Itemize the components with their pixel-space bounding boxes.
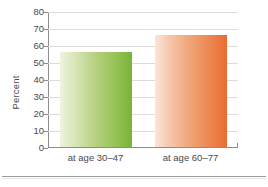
plot-area	[48, 12, 238, 148]
footer-divider	[2, 176, 266, 177]
x-axis-category-label: at age 30–47	[68, 152, 123, 163]
y-axis-tick	[44, 114, 48, 115]
x-axis-line	[48, 147, 238, 148]
y-axis-tick	[44, 12, 48, 13]
x-axis-category-label: at age 60–77	[163, 152, 218, 163]
y-axis-tick-label: 80	[22, 7, 44, 17]
gridline	[48, 29, 238, 30]
y-axis-tick-labels: 01020304050607080	[22, 12, 44, 148]
y-axis-tick-label: 20	[22, 109, 44, 119]
y-axis-tick	[44, 63, 48, 64]
y-axis-tick	[44, 46, 48, 47]
y-axis-tick-label: 70	[22, 24, 44, 34]
y-axis-tick-label: 10	[22, 126, 44, 136]
x-axis-end-tick	[237, 143, 238, 148]
x-axis-category-labels: at age 30–47at age 60–77	[48, 152, 238, 168]
gridline	[48, 12, 238, 13]
y-axis-tick	[44, 148, 48, 149]
y-axis-tick-label: 40	[22, 75, 44, 85]
y-axis-title-text: Percent	[10, 75, 21, 109]
y-axis-tick-label: 60	[22, 41, 44, 51]
y-axis-tick-label: 50	[22, 58, 44, 68]
y-axis-tick	[44, 97, 48, 98]
y-axis-tick-label: 30	[22, 92, 44, 102]
y-axis-title: Percent	[8, 52, 22, 132]
bar-chart-figure: Percent 01020304050607080 at age 30–47at…	[0, 0, 268, 187]
y-axis-tick	[44, 131, 48, 132]
y-axis-tick	[44, 29, 48, 30]
bar-0	[60, 52, 132, 147]
footer-divider-shadow	[2, 178, 266, 179]
y-axis-tick	[44, 80, 48, 81]
y-axis-tick-label: 0	[22, 143, 44, 153]
bar-1	[155, 35, 227, 147]
